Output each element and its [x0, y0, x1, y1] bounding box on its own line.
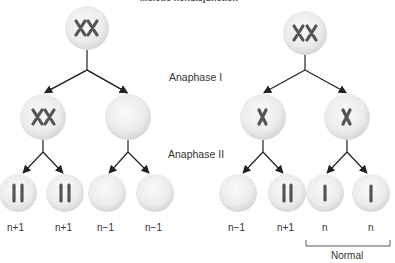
cell-label: n−1 [228, 222, 245, 233]
label-anaphase-1: Anaphase I [169, 71, 222, 83]
cell-label: n+1 [7, 222, 24, 233]
cell-label: n−1 [145, 222, 162, 233]
cell-label: n+1 [277, 222, 294, 233]
cell-label: n+1 [55, 222, 72, 233]
normal-label: Normal [331, 250, 363, 261]
cell-label: n [322, 222, 328, 233]
normal-bracket [306, 240, 390, 246]
cell-label: n [368, 222, 374, 233]
cell-label: n−1 [97, 222, 114, 233]
cells [0, 6, 390, 212]
label-anaphase-2: Anaphase II [168, 148, 224, 160]
